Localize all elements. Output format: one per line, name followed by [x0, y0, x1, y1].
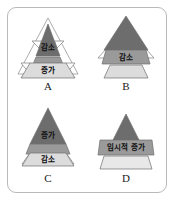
tier-label-middle: 감소	[119, 52, 133, 62]
tier-middle	[26, 144, 70, 154]
tier-label-bottom: 증가	[41, 65, 55, 75]
panel-letter-c: C	[8, 172, 88, 184]
panel-d-pyramid: 임시적 증가	[86, 100, 166, 176]
tier-label-middle: 임시적 증가	[107, 142, 145, 152]
tier-label-top: 감소	[41, 42, 55, 52]
tier-bottom	[100, 156, 152, 169]
panel-letter-d: D	[86, 172, 166, 184]
tier-bottom	[104, 65, 148, 78]
tier-label-bottom: 감소	[41, 154, 55, 164]
panel-a: 감소 증가 A	[8, 8, 88, 101]
tier-top	[104, 16, 148, 50]
panel-c: 증가 감소 C	[8, 100, 88, 193]
panel-b-pyramid: 감소	[86, 8, 166, 84]
panel-a-pyramid: 감소 증가	[8, 8, 88, 84]
tier-top	[113, 114, 139, 140]
panel-d: 임시적 증가 D	[86, 100, 166, 193]
panel-letter-a: A	[8, 80, 88, 92]
figure-frame: 감소 증가 A 감소 B	[7, 7, 167, 193]
tier-label-top: 증가	[41, 130, 55, 140]
panel-letter-b: B	[86, 80, 166, 92]
panel-c-pyramid: 증가 감소	[8, 100, 88, 176]
panel-b: 감소 B	[86, 8, 166, 101]
